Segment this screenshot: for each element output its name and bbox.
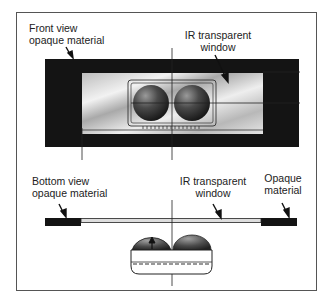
arrow-icon (59, 203, 289, 218)
opaque-material-left (45, 218, 81, 226)
bottom-view (45, 200, 297, 286)
sensor-pins (143, 126, 199, 129)
front-view (45, 47, 300, 160)
opaque-material-right (261, 218, 297, 226)
diagram-graphics (0, 0, 332, 304)
lens-right-dome (173, 235, 211, 250)
ir-window-front (82, 73, 263, 134)
ir-window-bottom (81, 219, 261, 223)
